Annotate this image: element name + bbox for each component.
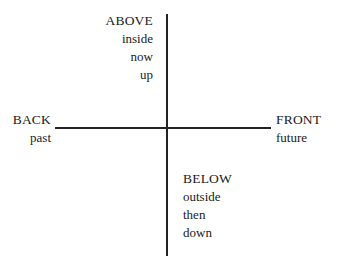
back-label-group: BACK past bbox=[13, 111, 51, 147]
below-title: BELOW bbox=[183, 170, 232, 188]
front-line-future: future bbox=[276, 129, 321, 147]
back-title: BACK bbox=[13, 111, 51, 129]
above-title: ABOVE bbox=[106, 12, 154, 30]
above-line-now: now bbox=[106, 48, 154, 66]
below-line-down: down bbox=[183, 224, 232, 242]
above-label-group: ABOVE inside now up bbox=[106, 12, 154, 84]
vertical-axis-line bbox=[166, 14, 168, 256]
below-line-then: then bbox=[183, 206, 232, 224]
front-title: FRONT bbox=[276, 111, 321, 129]
front-label-group: FRONT future bbox=[276, 111, 321, 147]
horizontal-axis-line bbox=[55, 127, 271, 129]
back-line-past: past bbox=[13, 129, 51, 147]
above-line-inside: inside bbox=[106, 30, 154, 48]
above-line-up: up bbox=[106, 66, 154, 84]
below-line-outside: outside bbox=[183, 188, 232, 206]
below-label-group: BELOW outside then down bbox=[183, 170, 232, 242]
